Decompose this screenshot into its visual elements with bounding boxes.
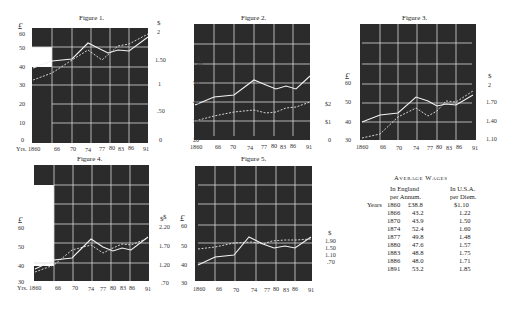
england-cell: £38.8 — [408, 201, 423, 208]
year-cell: 1880 — [387, 241, 400, 248]
x-tick: 86 — [292, 286, 298, 292]
y-tick: 30 — [181, 280, 187, 286]
england-cell: 48.0 — [412, 257, 424, 264]
year-cell: 1870 — [387, 217, 400, 224]
usa-cell: 1.85 — [459, 265, 471, 272]
col-usa-header: In U.S.A. — [450, 185, 475, 192]
year-cell: 1877 — [387, 233, 400, 240]
usa-cell: $1.10 — [454, 201, 469, 208]
figure-5-left-outer-unit: $ — [163, 214, 167, 221]
usa-cell: 1.60 — [459, 225, 471, 232]
x-tick: 66 — [216, 286, 222, 292]
x-tick: 80 — [273, 286, 279, 292]
year-cell: 1886 — [387, 257, 400, 264]
usa-cell: 1.22 — [459, 209, 471, 216]
col-usa-subheader: per Diem. — [450, 193, 476, 200]
y-tick: 40 — [181, 262, 187, 268]
y-tick: 50 — [181, 243, 187, 249]
figure-5-right-unit: $ — [328, 230, 332, 237]
x-tick: 91 — [308, 287, 314, 293]
year-cell: 1860 — [387, 201, 400, 208]
row-label-years: Years — [367, 201, 382, 208]
england-cell: 43.2 — [412, 209, 424, 216]
y-tick: 60 — [181, 223, 187, 229]
x-tick: 1860 — [193, 286, 205, 292]
usa-cell: 1.48 — [459, 233, 471, 240]
england-cell: 43.9 — [412, 217, 424, 224]
x-tick: 70 — [233, 287, 239, 293]
col-england-header: In England — [390, 185, 419, 192]
england-cell: 48.8 — [412, 249, 424, 256]
usa-cell: 1.50 — [459, 217, 471, 224]
col-england-subheader: per Annum. — [390, 193, 421, 200]
table-title: Average Wages — [394, 174, 448, 181]
england-cell: 49.8 — [412, 233, 424, 240]
year-cell: 1866 — [387, 209, 400, 216]
year-cell: 1874 — [387, 225, 400, 232]
year-cell: 1891 — [387, 265, 400, 272]
x-tick: 77 — [264, 287, 270, 293]
usa-cell: 1.71 — [459, 257, 471, 264]
x-tick: 83 — [283, 287, 289, 293]
figure-5-lines — [0, 0, 511, 309]
england-cell: 53.2 — [412, 265, 424, 272]
year-cell: 1883 — [387, 249, 400, 256]
usa-cell: 1.57 — [459, 241, 471, 248]
y2-tick: .70 — [327, 259, 335, 265]
usa-cell: 1.75 — [459, 249, 471, 256]
x-tick: 74 — [251, 287, 257, 293]
england-cell: 47.6 — [412, 241, 424, 248]
england-cell: 52.4 — [412, 225, 424, 232]
